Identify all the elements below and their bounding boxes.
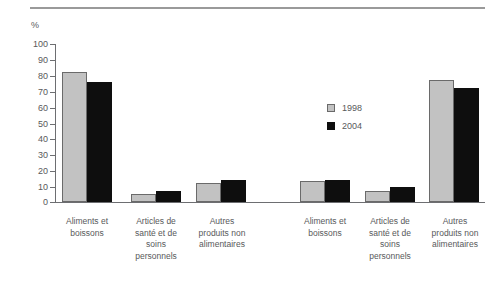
- legend-swatch-1998-icon: [327, 104, 335, 112]
- y-tick-20: [50, 171, 55, 172]
- bar-left-aliments-2004: [87, 82, 112, 202]
- cat-line: Autres: [183, 216, 261, 228]
- cat-line: Autres: [416, 216, 493, 228]
- x-category-label-right-autres: Autres produits non alimentaires: [416, 216, 493, 251]
- plot-area: 100 90 80 70 60 50 40 30 20 10 0: [0, 0, 493, 293]
- legend-label-1998: 1998: [342, 104, 362, 113]
- y-tick-30: [50, 155, 55, 156]
- bar-right-articles-1998: [365, 191, 390, 202]
- cat-line: Aliments et: [48, 216, 126, 228]
- y-tick-90: [50, 60, 55, 61]
- bar-left-autres-2004: [221, 180, 246, 202]
- x-category-label-left-autres: Autres produits non alimentaires: [183, 216, 261, 251]
- bar-left-autres-1998: [196, 183, 221, 202]
- bar-left-articles-1998: [131, 194, 156, 202]
- y-tick-label-40: 40: [22, 135, 48, 144]
- chart-figure: % 100 90 80 70 60 50 40 30 20 10 0: [0, 0, 493, 293]
- bar-right-aliments-1998: [300, 181, 325, 202]
- y-tick-60: [50, 108, 55, 109]
- cat-line: produits non: [416, 228, 493, 240]
- y-tick-100: [50, 44, 55, 45]
- y-tick-70: [50, 92, 55, 93]
- y-tick-label-10: 10: [22, 183, 48, 192]
- y-tick-label-20: 20: [22, 167, 48, 176]
- bar-right-aliments-2004: [325, 180, 350, 202]
- cat-line: personnels: [351, 251, 429, 263]
- cat-line: produits non: [183, 228, 261, 240]
- x-axis-line: [55, 202, 485, 203]
- y-tick-50: [50, 124, 55, 125]
- legend-label-2004: 2004: [342, 122, 362, 131]
- y-tick-label-50: 50: [22, 120, 48, 129]
- legend-item-1998: 1998: [327, 99, 362, 117]
- cat-line: personnels: [117, 251, 195, 263]
- bar-left-aliments-1998: [62, 72, 87, 202]
- y-tick-label-60: 60: [22, 104, 48, 113]
- cat-line: alimentaires: [416, 239, 493, 251]
- y-tick-label-90: 90: [22, 56, 48, 65]
- cat-line: boissons: [48, 228, 126, 240]
- legend-swatch-2004-icon: [327, 122, 335, 130]
- y-tick-label-30: 30: [22, 151, 48, 160]
- y-tick-label-100: 100: [22, 40, 48, 49]
- y-tick-label-0: 0: [22, 198, 48, 207]
- bar-right-autres-2004: [454, 88, 479, 202]
- bar-right-articles-2004: [390, 187, 415, 202]
- y-tick-10: [50, 187, 55, 188]
- bar-left-articles-2004: [156, 191, 181, 202]
- y-tick-label-80: 80: [22, 72, 48, 81]
- y-tick-40: [50, 139, 55, 140]
- y-axis-line: [55, 44, 56, 203]
- y-tick-0: [50, 202, 55, 203]
- x-category-label-left-aliments: Aliments et boissons: [48, 216, 126, 239]
- y-tick-80: [50, 76, 55, 77]
- cat-line: alimentaires: [183, 239, 261, 251]
- bar-right-autres-1998: [429, 80, 454, 202]
- y-tick-label-70: 70: [22, 88, 48, 97]
- legend-item-2004: 2004: [327, 117, 362, 135]
- chart-legend: 1998 2004: [327, 99, 362, 135]
